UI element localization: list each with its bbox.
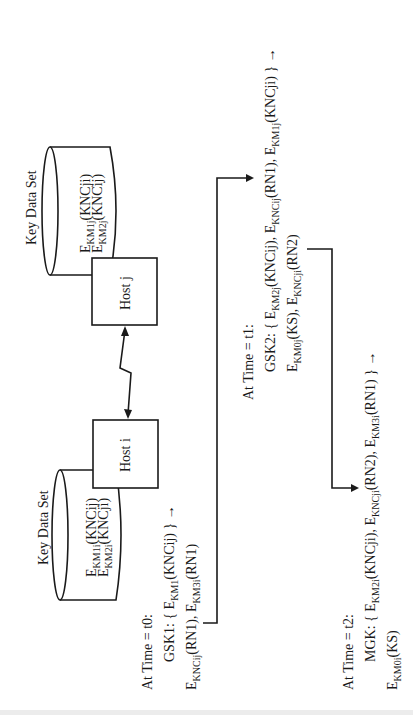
arrowhead-icon	[121, 326, 129, 336]
time-label-t2: At Time = t2:	[341, 614, 356, 690]
arrow-right-icon	[351, 484, 359, 492]
time-label-t0: At Time = t0:	[140, 614, 155, 690]
host-i-box: Host i	[93, 420, 158, 488]
key-data-set-host-j: Key Data Set EKM1j(KNCji) EKM2j(KNCij)	[24, 147, 116, 275]
step-t2: At Time = t2: MGK: { EKM2i(KNCji), EKNCj…	[341, 352, 403, 690]
step-t0: At Time = t0: GSK1: { EKM1(KNCij) } → EK…	[140, 505, 202, 690]
host-j-box: Host j	[92, 258, 157, 325]
arrowhead-icon	[124, 409, 132, 419]
host-i-label: Host i	[118, 438, 133, 472]
step-t0-line-2: EKNCij(RN1), EKM3i(RN1)	[184, 543, 202, 690]
key-data-set-title: Key Data Set	[24, 170, 39, 245]
key-data-set-title: Key Data Set	[36, 490, 51, 565]
step-t1: At Time = t1: GSK2: { EKM2j(KNCij), EKNC…	[241, 48, 303, 400]
connector-t1-to-t2	[307, 249, 359, 492]
step-t1-line-2: EKM0j(KS), EKNCji(RN2)	[285, 234, 303, 372]
time-label-t1: At Time = t1:	[241, 324, 256, 400]
step-t2-line-2: EKM0i(KS)	[385, 630, 403, 690]
page-bottom-edge	[0, 710, 413, 715]
communication-link	[120, 326, 132, 419]
key-exchange-diagram: Key Data Set EKM1j(KNCji) EKM2j(KNCij) H…	[0, 0, 413, 715]
step-t2-line-1: MGK: { EKM2i(KNCji), EKNCji(RN2), EKM3i(…	[363, 352, 381, 662]
host-j-label: Host j	[118, 276, 133, 310]
step-t1-line-1: GSK2: { EKM2j(KNCij), EKNCij(RN1), EKM1j…	[263, 48, 281, 372]
step-t0-line-1: GSK1: { EKM1(KNCij) } →	[162, 505, 180, 662]
key-data-set-host-i: Key Data Set EKM1i(KNCij) EKM2i(KNCji)	[36, 470, 121, 600]
arrow-right-icon	[246, 174, 254, 182]
